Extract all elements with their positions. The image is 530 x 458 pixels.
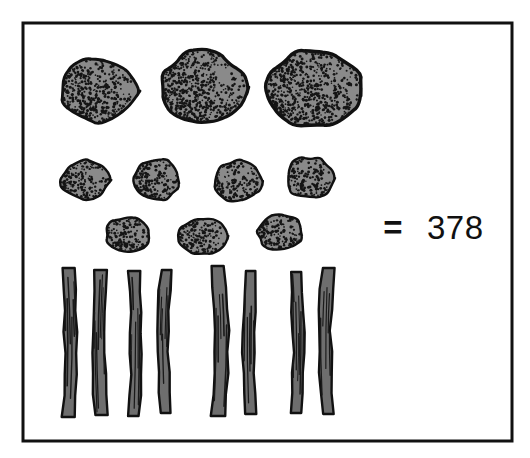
stick-6 <box>242 271 256 414</box>
total-value: 378 <box>427 209 484 246</box>
stick-2 <box>92 270 107 415</box>
equals-sign: = <box>383 209 402 246</box>
stick-1 <box>62 268 78 417</box>
stick-5 <box>211 266 230 416</box>
small-stones-row <box>105 214 302 256</box>
large-stones-row <box>60 49 361 126</box>
stick-3 <box>128 271 142 416</box>
illustration-canvas: = 378 <box>0 0 530 458</box>
stick-7 <box>291 272 305 413</box>
stick-4 <box>157 270 171 413</box>
tally-illustration: = 378 <box>0 0 530 458</box>
